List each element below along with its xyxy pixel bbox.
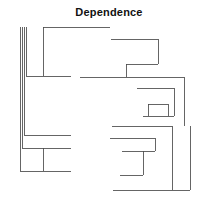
dendrogram-link-group: [20, 27, 190, 190]
dendrogram-canvas: [0, 0, 218, 197]
dendrogram-plot: Dependence: [0, 0, 218, 197]
